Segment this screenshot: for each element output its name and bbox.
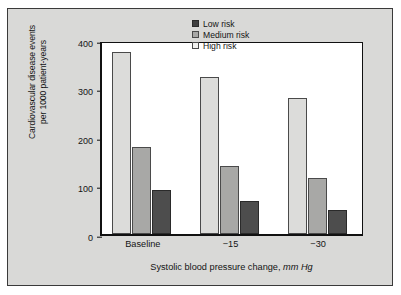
y-axis-tick-label: 100 bbox=[78, 184, 97, 194]
x-axis-tick-label: Baseline bbox=[125, 239, 160, 249]
x-axis-tick-label: −30 bbox=[310, 239, 326, 249]
figure-screenshot: Cardiovascular disease events per 1000 p… bbox=[0, 0, 401, 295]
figure-panel: Cardiovascular disease events per 1000 p… bbox=[7, 8, 393, 286]
bar-low-risk bbox=[240, 201, 259, 234]
bar-group bbox=[190, 43, 278, 234]
y-axis-tick: 0 bbox=[88, 232, 102, 243]
plot-area: 0100200300400 Baseline−15−30 bbox=[100, 42, 363, 236]
x-axis-tick-label: −15 bbox=[223, 239, 239, 249]
bar-low-risk bbox=[152, 190, 171, 234]
legend-item-high-risk: High risk bbox=[192, 40, 249, 51]
y-axis-tick: 300 bbox=[78, 86, 102, 97]
y-axis-title: Cardiovascular disease events per 1000 p… bbox=[27, 0, 49, 182]
x-axis-title: Systolic blood pressure change, mm Hg bbox=[100, 262, 363, 272]
y-axis-tick-label: 300 bbox=[78, 87, 97, 97]
legend-label: Medium risk bbox=[203, 30, 249, 40]
chart-legend: Low riskMedium riskHigh risk bbox=[192, 18, 249, 51]
bar-group bbox=[102, 43, 190, 234]
bar-medium-risk bbox=[132, 147, 151, 234]
y-axis-tick: 400 bbox=[78, 38, 102, 49]
legend-label: Low risk bbox=[203, 19, 235, 29]
legend-label: High risk bbox=[203, 41, 236, 51]
y-axis-tick-label: 400 bbox=[78, 38, 97, 48]
y-axis-tick: 200 bbox=[78, 135, 102, 146]
bar-group bbox=[277, 43, 365, 234]
y-axis-title-line-1: Cardiovascular disease events bbox=[27, 0, 38, 182]
bar-high-risk bbox=[200, 77, 219, 234]
bar-high-risk bbox=[288, 98, 307, 234]
legend-item-low-risk: Low risk bbox=[192, 18, 249, 29]
y-axis-title-line-2: per 1000 patient-years bbox=[38, 0, 49, 182]
x-axis-title-text: Systolic blood pressure change, bbox=[150, 262, 280, 272]
bar-medium-risk bbox=[220, 166, 239, 234]
y-axis-tick-label: 0 bbox=[88, 232, 97, 242]
legend-swatch-medium-risk bbox=[192, 31, 199, 38]
legend-swatch-high-risk bbox=[192, 42, 199, 49]
y-axis-tick-label: 200 bbox=[78, 135, 97, 145]
legend-swatch-low-risk bbox=[192, 20, 199, 27]
y-axis-tick: 100 bbox=[78, 183, 102, 194]
x-axis-title-unit: mm Hg bbox=[283, 262, 313, 272]
bar-high-risk bbox=[112, 52, 131, 234]
bar-low-risk bbox=[328, 210, 347, 234]
bar-medium-risk bbox=[308, 178, 327, 234]
y-axis-tick-mark bbox=[97, 236, 102, 237]
legend-item-medium-risk: Medium risk bbox=[192, 29, 249, 40]
